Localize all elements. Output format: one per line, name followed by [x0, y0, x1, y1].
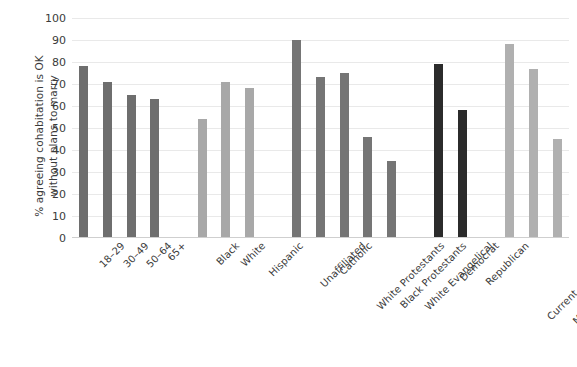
bar[interactable]: [103, 82, 112, 238]
y-axis-tick-label: 60: [26, 100, 66, 113]
gridline: [72, 62, 569, 63]
y-axis-tick-label: 20: [26, 188, 66, 201]
bar[interactable]: [529, 69, 538, 238]
y-axis-tick-labels: 0102030405060708090100: [22, 18, 66, 238]
y-axis-tick-label: 30: [26, 166, 66, 179]
x-axis-tick-label: Hispanic: [266, 240, 304, 278]
x-axis-tick-label: Black: [214, 240, 241, 267]
bar[interactable]: [387, 161, 396, 238]
bar[interactable]: [127, 95, 136, 238]
bar[interactable]: [434, 64, 443, 238]
bar[interactable]: [198, 119, 207, 238]
bar[interactable]: [458, 110, 467, 238]
x-axis-line: [72, 237, 569, 238]
x-axis-tick-label: White: [238, 240, 267, 269]
y-axis-tick-label: 100: [26, 12, 66, 25]
bar[interactable]: [245, 88, 254, 238]
x-axis-tick-label: Current cohabitators: [545, 240, 577, 322]
x-axis-tick-label: 18–29: [97, 240, 127, 270]
gridline: [72, 18, 569, 19]
bar[interactable]: [316, 77, 325, 238]
y-axis-tick-label: 10: [26, 210, 66, 223]
bar[interactable]: [292, 40, 301, 238]
bar[interactable]: [363, 137, 372, 238]
x-axis-tick-label: 30–49: [121, 240, 151, 270]
y-axis-tick-label: 0: [26, 232, 66, 245]
plot-area: [72, 18, 569, 238]
bar[interactable]: [505, 44, 514, 238]
gridline: [72, 40, 569, 41]
bar[interactable]: [221, 82, 230, 238]
bar[interactable]: [340, 73, 349, 238]
bar-chart: % agreeing cohabitation is OK without pl…: [0, 0, 577, 367]
y-axis-tick-label: 40: [26, 144, 66, 157]
bar[interactable]: [79, 66, 88, 238]
bar[interactable]: [150, 99, 159, 238]
y-axis-tick-label: 90: [26, 34, 66, 47]
x-axis-tick-labels: 18–2930–4950–6465+BlackWhiteHispanicUnaf…: [72, 240, 569, 365]
bar[interactable]: [553, 139, 562, 238]
y-axis-tick-label: 70: [26, 78, 66, 91]
y-axis-tick-label: 50: [26, 122, 66, 135]
y-axis-tick-label: 80: [26, 56, 66, 69]
